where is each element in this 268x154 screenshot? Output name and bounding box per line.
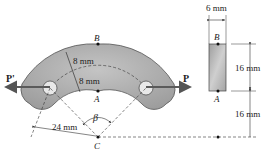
section-point-a-label: A — [213, 94, 220, 104]
angle-beta-label: β — [92, 112, 98, 123]
angle-beta-arc — [85, 117, 111, 123]
section-point-b-label: B — [214, 32, 220, 42]
radius-dimension-label: 24 mm — [52, 122, 77, 132]
section-point-a-dot — [217, 90, 220, 93]
inner-thickness-label: 8 mm — [79, 76, 100, 86]
curved-bar-diagram: β 24 mm 8 mm 8 mm B A C P' P B A 6 mm 16… — [0, 0, 268, 154]
force-left-label: P' — [6, 73, 15, 84]
point-a-label: A — [93, 94, 100, 104]
cross-section — [209, 44, 226, 91]
section-height-label: 16 mm — [235, 63, 260, 73]
point-b-label: B — [94, 33, 100, 43]
section-point-b-dot — [217, 43, 220, 46]
point-c-label: C — [94, 141, 101, 151]
point-a-dot — [96, 89, 99, 92]
outer-thickness-label: 8 mm — [73, 56, 94, 66]
section-reference-dot — [217, 136, 220, 139]
section-offset-label: 16 mm — [235, 109, 260, 119]
section-width-label: 6 mm — [206, 3, 227, 13]
force-right-label: P — [183, 73, 189, 84]
point-c-dot — [96, 135, 99, 138]
